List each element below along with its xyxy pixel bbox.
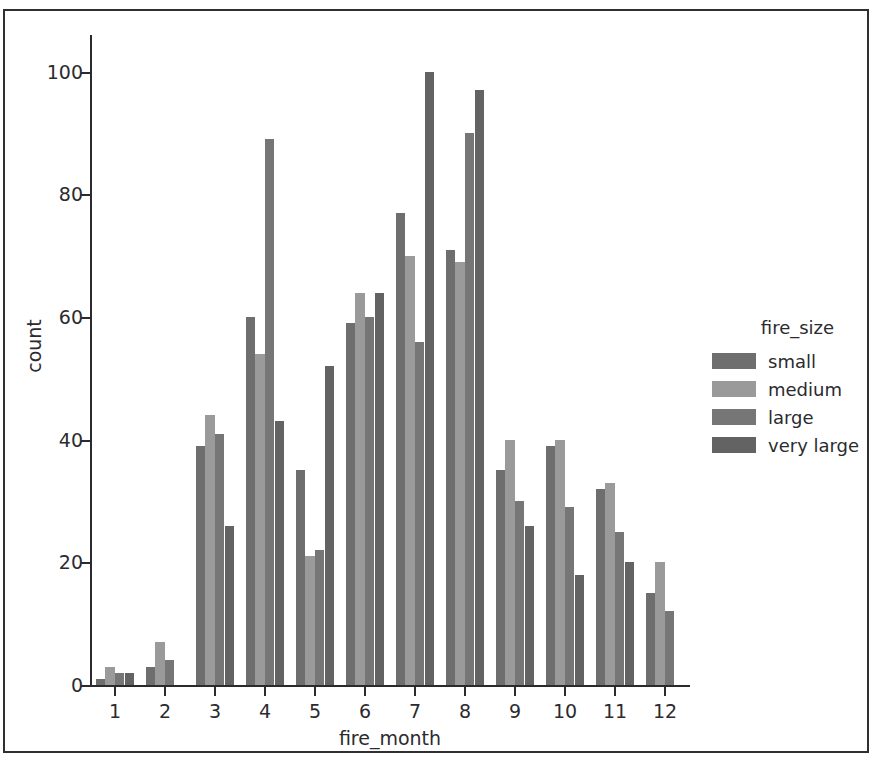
x-tick-mark-8: [464, 687, 466, 696]
bar: [315, 550, 324, 685]
legend-entries: smallmediumlargevery large: [712, 347, 867, 459]
bar: [305, 556, 314, 685]
y-tick-label: 80: [59, 183, 83, 205]
bar: [605, 483, 614, 685]
bar: [646, 593, 655, 685]
legend-entry-small[interactable]: small: [712, 347, 867, 375]
bar: [255, 354, 264, 685]
x-tick-mark-12: [664, 687, 666, 696]
x-tick-mark-9: [514, 687, 516, 696]
legend-title: fire_size: [712, 317, 867, 338]
bar: [265, 139, 274, 685]
bar: [465, 133, 474, 685]
figure-frame: count 020406080100 123456789101112 fire_…: [3, 9, 869, 753]
bar: [225, 526, 234, 685]
bar: [455, 262, 464, 685]
legend-entry-very-large[interactable]: very large: [712, 431, 867, 459]
x-tick-mark-7: [414, 687, 416, 696]
bar: [446, 250, 455, 685]
x-tick-label-12: 12: [653, 700, 677, 722]
y-axis-spine: [90, 35, 92, 687]
bar: [396, 213, 405, 685]
bar: [375, 293, 384, 685]
x-tick-label-7: 7: [409, 700, 421, 722]
x-tick-mark-3: [214, 687, 216, 696]
y-tick-label: 0: [71, 674, 83, 696]
bar: [325, 366, 334, 685]
y-tick-label: 100: [47, 61, 83, 83]
bar: [196, 446, 205, 685]
bar: [96, 679, 105, 685]
bar: [125, 673, 134, 685]
legend-swatch-icon: [712, 437, 756, 453]
bar: [215, 434, 224, 685]
bar: [365, 317, 374, 685]
bar: [615, 532, 624, 685]
legend-label: large: [768, 407, 814, 428]
bar: [115, 673, 124, 685]
bar: [505, 440, 514, 685]
bar: [296, 470, 305, 685]
x-tick-mark-4: [264, 687, 266, 696]
x-tick-mark-1: [114, 687, 116, 696]
x-tick-label-4: 4: [259, 700, 271, 722]
bar: [246, 317, 255, 685]
bar: [105, 667, 114, 685]
x-tick-label-6: 6: [359, 700, 371, 722]
bar: [405, 256, 414, 685]
bar: [655, 562, 664, 685]
x-tick-mark-11: [614, 687, 616, 696]
legend-entry-medium[interactable]: medium: [712, 375, 867, 403]
x-tick-mark-6: [364, 687, 366, 696]
legend-label: medium: [768, 379, 842, 400]
bar: [546, 446, 555, 685]
legend-swatch-icon: [712, 409, 756, 425]
bar: [415, 342, 424, 685]
legend-swatch-icon: [712, 381, 756, 397]
x-tick-label-9: 9: [509, 700, 521, 722]
bar: [475, 90, 484, 685]
bar: [165, 660, 174, 685]
x-tick-label-5: 5: [309, 700, 321, 722]
x-tick-label-1: 1: [109, 700, 121, 722]
x-axis-label: fire_month: [90, 727, 690, 749]
clipped-top-text: ······: [0, 0, 873, 8]
x-axis-spine: [90, 685, 690, 687]
y-axis-label: count: [23, 319, 45, 373]
y-axis-label-holder: count: [25, 11, 65, 711]
bar: [146, 667, 155, 685]
bar: [155, 642, 164, 685]
legend-entry-large[interactable]: large: [712, 403, 867, 431]
bar: [565, 507, 574, 685]
bar: [205, 415, 214, 685]
clipped-top-text-label: ······: [150, 0, 181, 4]
x-tick-mark-10: [564, 687, 566, 696]
x-tick-mark-5: [314, 687, 316, 696]
bar: [515, 501, 524, 685]
bar: [625, 562, 634, 685]
x-tick-label-8: 8: [459, 700, 471, 722]
x-tick-label-11: 11: [603, 700, 627, 722]
x-tick-mark-2: [164, 687, 166, 696]
plot-area: 020406080100 123456789101112: [90, 35, 690, 687]
legend-swatch-icon: [712, 353, 756, 369]
x-tick-label-10: 10: [553, 700, 577, 722]
x-tick-label-2: 2: [159, 700, 171, 722]
bar: [596, 489, 605, 685]
x-tick-label-3: 3: [209, 700, 221, 722]
bar: [346, 323, 355, 685]
bar: [496, 470, 505, 685]
bar: [355, 293, 364, 685]
bar: [575, 575, 584, 685]
bar: [665, 611, 674, 685]
bar: [275, 421, 284, 685]
y-tick-label: 40: [59, 429, 83, 451]
y-tick-label: 60: [59, 306, 83, 328]
bar: [555, 440, 564, 685]
legend: fire_size smallmediumlargevery large: [712, 317, 867, 459]
bar: [425, 72, 434, 685]
bar: [525, 526, 534, 685]
legend-label: very large: [768, 435, 859, 456]
legend-label: small: [768, 351, 816, 372]
y-tick-label: 20: [59, 551, 83, 573]
